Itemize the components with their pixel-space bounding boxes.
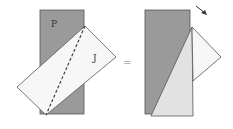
equals-sign: = [123,57,131,68]
arrow-icon [196,6,207,15]
right-figure [145,6,221,116]
label-p: P [51,19,57,29]
label-j: J [92,53,97,63]
left-figure: P J [17,10,116,115]
folding-diagram: P J = [0,0,233,129]
flap-triangle [192,27,221,81]
